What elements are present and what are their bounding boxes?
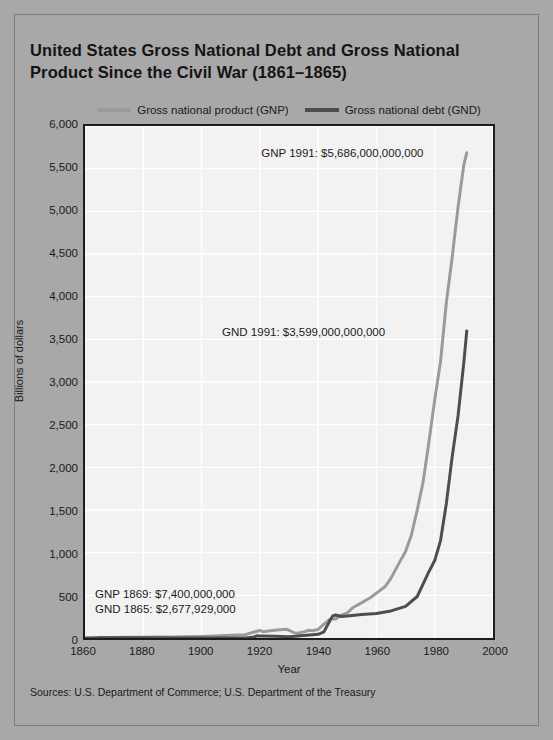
chart-legend: Gross national product (GNP) Gross natio… bbox=[83, 101, 495, 119]
plot-wrapper: GNP 1991: $5,686,000,000,000GND 1991: $3… bbox=[83, 124, 495, 640]
y-tick-label: 2,000 bbox=[8, 462, 78, 474]
y-tick-label: 4,000 bbox=[8, 290, 78, 302]
y-tick-label: 5,000 bbox=[8, 204, 78, 216]
legend-label-gnd: Gross national debt (GND) bbox=[345, 104, 481, 116]
x-tick-label: 1900 bbox=[171, 645, 231, 657]
x-tick-label: 1960 bbox=[347, 645, 407, 657]
x-axis-tick-labels: 18601880190019201940196019802000 bbox=[83, 645, 495, 661]
y-tick-label: 6,000 bbox=[8, 118, 78, 130]
legend-label-gnp: Gross national product (GNP) bbox=[137, 104, 288, 116]
x-tick-label: 2000 bbox=[465, 645, 525, 657]
series-line bbox=[100, 153, 467, 638]
y-tick-label: 1,500 bbox=[8, 505, 78, 517]
legend-entry-gnd: Gross national debt (GND) bbox=[305, 104, 481, 116]
x-axis-title: Year bbox=[83, 663, 495, 675]
y-tick-label: 3,500 bbox=[8, 333, 78, 345]
y-axis-tick-labels: 05001,0001,5002,0002,5003,0003,5004,0004… bbox=[5, 124, 78, 640]
page-title: United States Gross National Debt and Gr… bbox=[30, 40, 520, 84]
data-series bbox=[85, 126, 493, 638]
plot-area: GNP 1991: $5,686,000,000,000GND 1991: $3… bbox=[83, 124, 495, 640]
chart-page: United States Gross National Debt and Gr… bbox=[0, 0, 553, 740]
y-tick-label: 4,500 bbox=[8, 247, 78, 259]
legend-entry-gnp: Gross national product (GNP) bbox=[97, 104, 288, 116]
y-tick-label: 2,500 bbox=[8, 419, 78, 431]
y-tick-label: 1,000 bbox=[8, 548, 78, 560]
y-tick-label: 3,000 bbox=[8, 376, 78, 388]
x-tick-label: 1980 bbox=[406, 645, 466, 657]
y-tick-label: 500 bbox=[8, 591, 78, 603]
legend-swatch-gnd-icon bbox=[305, 108, 339, 112]
legend-swatch-gnp-icon bbox=[97, 108, 131, 112]
x-tick-label: 1920 bbox=[230, 645, 290, 657]
x-tick-label: 1880 bbox=[112, 645, 172, 657]
y-tick-label: 5,500 bbox=[8, 161, 78, 173]
series-line bbox=[85, 331, 467, 638]
source-note: Sources: U.S. Department of Commerce; U.… bbox=[30, 686, 375, 698]
x-tick-label: 1860 bbox=[53, 645, 113, 657]
x-tick-label: 1940 bbox=[288, 645, 348, 657]
